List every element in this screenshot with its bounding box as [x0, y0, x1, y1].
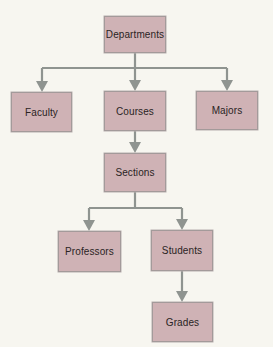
arrowhead-majors [221, 80, 233, 91]
node-label: Courses [116, 106, 154, 117]
hierarchy-diagram: Departments Faculty Courses Majors Secti… [0, 0, 273, 347]
node-label: Professors [65, 246, 114, 257]
arrowhead-sections [129, 142, 141, 153]
node-label: Sections [115, 167, 154, 178]
node-students: Students [151, 230, 213, 271]
node-courses: Courses [104, 91, 166, 131]
node-label: Majors [212, 105, 243, 116]
node-label: Students [162, 245, 202, 256]
node-sections: Sections [104, 153, 166, 192]
arrowhead-grades [176, 291, 188, 302]
node-label: Faculty [25, 107, 58, 118]
node-departments: Departments [104, 16, 166, 53]
node-label: Grades [166, 317, 199, 328]
node-label: Departments [106, 29, 164, 40]
node-faculty: Faculty [11, 92, 72, 132]
arrowhead-professors [83, 220, 95, 231]
arrowhead-faculty [36, 81, 48, 92]
node-professors: Professors [58, 231, 121, 272]
node-majors: Majors [196, 91, 258, 130]
arrowhead-students [176, 219, 188, 230]
arrowhead-courses [129, 80, 141, 91]
node-grades: Grades [152, 302, 213, 342]
